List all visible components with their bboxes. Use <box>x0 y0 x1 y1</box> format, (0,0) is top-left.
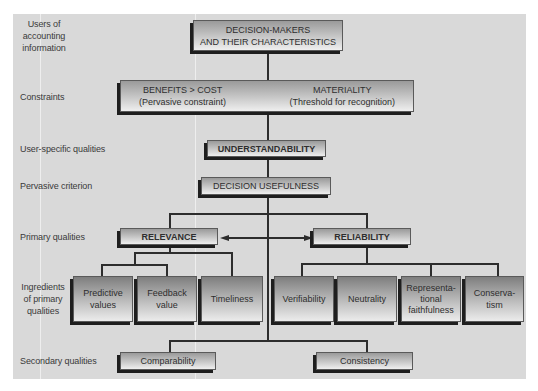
connector <box>166 264 168 276</box>
node-constraints: BENEFITS > COST (Pervasive constraint) M… <box>120 80 414 112</box>
node-subtext: (Pervasive constraint) <box>139 96 226 108</box>
node-reliability: RELIABILITY <box>313 228 411 245</box>
arrow-left-icon <box>220 235 229 241</box>
node-subtext: (Threshold for recognition) <box>289 96 395 108</box>
node-text: value <box>156 299 178 311</box>
node-text: tism <box>486 299 503 311</box>
row-label-secondary: Secondary qualities <box>20 355 97 367</box>
row-label-line: accounting <box>18 30 70 42</box>
connector <box>366 245 368 264</box>
row-label-line: Ingredients <box>17 281 69 293</box>
node-text: Neutrality <box>348 293 386 305</box>
node-conservatism: Conserva- tism <box>465 276 524 322</box>
node-verifiability: Verifiability <box>274 276 334 322</box>
node-text: AND THEIR CHARACTERISTICS <box>200 36 336 48</box>
node-decision-makers: DECISION-MAKERS AND THEIR CHARACTERISTIC… <box>193 20 343 51</box>
node-consistency: Consistency <box>316 352 413 370</box>
row-label-line: of primary <box>17 293 69 305</box>
node-timeliness: Timeliness <box>201 276 263 322</box>
connector <box>267 157 269 177</box>
row-label-line: information <box>18 42 70 54</box>
node-decision-usefulness: DECISION USEFULNESS <box>201 177 331 195</box>
connector <box>267 112 269 140</box>
row-label-user-specific: User-specific qualities <box>20 143 105 155</box>
connector <box>101 264 167 266</box>
connector <box>497 263 499 276</box>
connector <box>134 252 232 254</box>
connector-trunk <box>267 195 269 341</box>
node-text: DECISION-MAKERS <box>226 24 311 36</box>
node-text: Feedback <box>147 287 187 299</box>
row-label-users: Users of accounting information <box>18 18 70 54</box>
row-label-ingredients: Ingredients of primary qualities <box>17 281 69 317</box>
connector <box>231 252 233 276</box>
constraint-benefits: BENEFITS > COST (Pervasive constraint) <box>139 84 226 108</box>
connector-secondary-branch <box>169 340 367 342</box>
node-neutrality: Neutrality <box>337 276 397 322</box>
node-text: tional <box>420 294 442 305</box>
scan-line <box>195 14 196 379</box>
connector <box>267 51 269 80</box>
connector-primary-branch <box>169 213 367 215</box>
row-label-line: Users of <box>18 18 70 30</box>
node-text: Verifiability <box>282 293 325 305</box>
node-predictive-values: Predictive values <box>73 276 133 322</box>
arrow-right-icon <box>304 235 313 241</box>
row-label-line: qualities <box>17 305 69 317</box>
node-relevance: RELEVANCE <box>120 228 218 245</box>
node-text: BENEFITS > COST <box>139 84 226 96</box>
relation-arrow-line <box>226 237 307 239</box>
node-text: Conserva- <box>474 287 516 299</box>
row-label-constraints: Constraints <box>20 91 64 103</box>
connector <box>169 340 171 352</box>
connector <box>366 213 368 228</box>
node-text: MATERIALITY <box>289 84 395 96</box>
node-feedback-value: Feedback value <box>137 276 197 322</box>
node-text: values <box>90 299 116 311</box>
node-representational-faithfulness: Representa- tional faithfulness <box>401 276 461 322</box>
node-text: Timeliness <box>211 293 254 305</box>
row-label-primary: Primary qualities <box>20 231 85 243</box>
node-text: Representa- <box>406 283 456 294</box>
connector <box>169 213 171 228</box>
node-comparability: Comparability <box>120 352 216 370</box>
node-text: Predictive <box>83 287 123 299</box>
connector <box>301 263 498 265</box>
diagram-panel <box>13 14 526 379</box>
node-understandability: UNDERSTANDABILITY <box>207 140 326 157</box>
connector <box>366 340 368 352</box>
connector <box>430 263 432 276</box>
scan-line <box>40 14 41 379</box>
connector <box>301 263 303 276</box>
node-text: faithfulness <box>408 305 454 316</box>
connector <box>101 264 103 276</box>
constraint-materiality: MATERIALITY (Threshold for recognition) <box>289 84 395 108</box>
row-label-pervasive: Pervasive criterion <box>20 180 92 192</box>
